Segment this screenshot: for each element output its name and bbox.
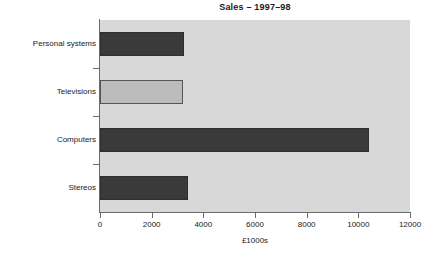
y-axis-tick xyxy=(93,68,99,69)
x-axis-tick xyxy=(255,213,256,218)
y-axis-label-televisions: Televisions xyxy=(0,87,96,97)
y-axis-label-computers: Computers xyxy=(0,135,96,145)
bar-computers xyxy=(100,128,369,152)
y-axis-label-personal-systems: Personal systems xyxy=(0,39,96,49)
chart-title: Sales – 1997–98 xyxy=(100,2,410,12)
x-axis-tick xyxy=(203,213,204,218)
bar-personal-systems xyxy=(100,32,184,56)
y-axis-label-stereos: Stereos xyxy=(0,183,96,193)
y-axis-tick xyxy=(93,116,99,117)
bar-televisions xyxy=(100,80,183,104)
x-axis-title: £1000s xyxy=(100,236,410,245)
bar-stereos xyxy=(100,176,188,200)
x-axis-tick-label: 12000 xyxy=(380,220,426,229)
x-axis-tick xyxy=(152,213,153,218)
bar-chart: Sales – 1997–98 Personal systems Televis… xyxy=(0,0,426,273)
x-axis-tick xyxy=(100,213,101,218)
x-axis-tick xyxy=(410,213,411,218)
y-axis-tick xyxy=(93,164,99,165)
x-axis-tick xyxy=(358,213,359,218)
x-axis-tick xyxy=(307,213,308,218)
